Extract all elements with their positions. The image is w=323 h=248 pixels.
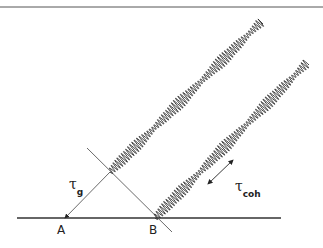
lower-wave-packet xyxy=(154,60,309,219)
tau-symbol: τ xyxy=(235,178,243,194)
interferometer-diagram xyxy=(0,0,323,248)
wavefront-line xyxy=(87,148,172,232)
upper-wave-packet xyxy=(109,19,263,174)
geometric-delay-subscript: g xyxy=(77,187,83,197)
point-b-label: B xyxy=(149,223,157,237)
geometric-delay-label: τg xyxy=(69,176,83,195)
coherence-time-label: τcoh xyxy=(235,178,261,197)
point-a-label: A xyxy=(57,223,65,237)
coherence-time-subscript: coh xyxy=(243,189,261,199)
tau-symbol: τ xyxy=(69,176,77,192)
